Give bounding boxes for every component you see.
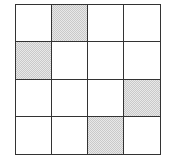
grid-cell xyxy=(16,80,52,117)
shaded-grid-cell xyxy=(52,5,88,42)
grid-cell xyxy=(52,42,88,79)
grid-cell xyxy=(88,80,124,117)
grid-cell xyxy=(52,80,88,117)
grid-cell xyxy=(88,5,124,42)
grid-cell xyxy=(52,117,88,154)
grid-cell xyxy=(124,117,160,154)
grid-cell xyxy=(16,117,52,154)
four-by-four-grid xyxy=(15,4,161,155)
shaded-grid-cell xyxy=(124,80,160,117)
grid-cell xyxy=(124,42,160,79)
grid-cell xyxy=(124,5,160,42)
grid-cell xyxy=(16,5,52,42)
shaded-grid-cell xyxy=(88,117,124,154)
shaded-grid-cell xyxy=(16,42,52,79)
grid-cell xyxy=(88,42,124,79)
